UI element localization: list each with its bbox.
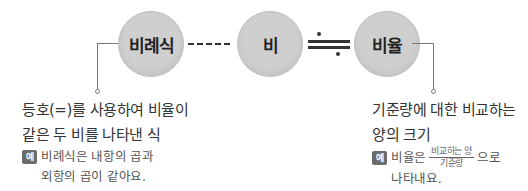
leader-line-right-v — [433, 43, 434, 90]
example-badge: 예 — [372, 151, 387, 165]
right-example: 예 비율은 비교하는 양 기준량 으로 나타내요. — [372, 146, 501, 189]
node-proportion-expression: 비례식 — [118, 11, 184, 77]
node-label: 비례식 — [129, 32, 174, 57]
definition-line: 양의 크기 — [372, 123, 516, 148]
left-definition: 등호(=)를 사용하여 비율이 같은 두 비를 나타낸 식 — [22, 98, 188, 148]
example-badge: 예 — [22, 150, 37, 164]
right-definition: 기준량에 대한 비교하는 양의 크기 — [372, 98, 516, 148]
leader-line-right-h — [412, 43, 434, 44]
approx-dot-top — [317, 32, 321, 36]
left-example: 예비례식은 내항의 곱과 외항의 곱이 같아요. — [22, 147, 154, 187]
example-line: 비례식은 내항의 곱과 — [41, 149, 154, 164]
approx-line-top — [308, 40, 350, 43]
approx-dot-bottom — [336, 52, 340, 56]
leader-pin-left — [95, 89, 100, 94]
fraction-numerator: 비교하는 양 — [429, 146, 474, 158]
node-label: 비 — [263, 32, 278, 57]
definition-line: 같은 두 비를 나타낸 식 — [22, 123, 188, 148]
fraction-denominator: 기준량 — [429, 158, 474, 169]
node-rate: 비율 — [354, 11, 420, 77]
leader-line-left-v — [97, 43, 98, 90]
fraction: 비교하는 양 기준량 — [429, 146, 474, 169]
approximately-equal-icon — [308, 30, 350, 60]
example-line: 나타내요. — [372, 169, 501, 189]
definition-line: 등호(=)를 사용하여 비율이 — [22, 98, 188, 123]
example-text: 비율은 — [391, 148, 426, 168]
example-line: 외항의 곱이 같아요. — [22, 167, 154, 187]
node-label: 비율 — [372, 32, 402, 57]
node-ratio: 비 — [237, 11, 303, 77]
example-text: 으로 — [477, 148, 500, 168]
approx-line-bottom — [308, 46, 350, 49]
leader-line-left-h — [97, 43, 118, 44]
leader-pin-right — [431, 89, 436, 94]
definition-line: 기준량에 대한 비교하는 — [372, 98, 516, 123]
dashed-connector — [188, 43, 230, 45]
